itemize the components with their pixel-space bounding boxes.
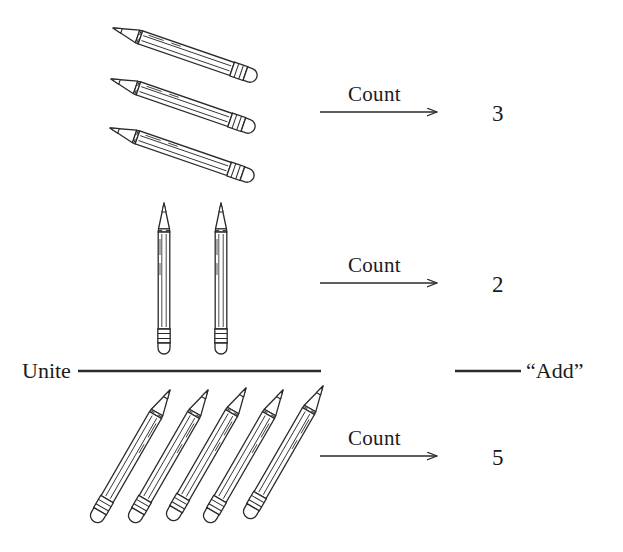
pencil-icon [158,203,170,354]
row-top-count-label: Count [348,84,401,105]
counting-diagram [0,0,623,552]
unite-label: Unite [22,360,71,382]
row-top-pencil-group [108,21,259,184]
pencil-icon [111,21,259,84]
row-bottom-pencil-group [88,382,330,525]
pencil-icon [108,121,256,184]
row-top-result: 3 [492,102,504,125]
row-middle-pencil-group [158,203,227,354]
row-middle-result: 2 [492,273,504,296]
row-bottom-count-label: Count [348,428,401,449]
row-bottom-result: 5 [492,446,504,469]
row-middle-count-label: Count [348,255,401,276]
pencil-icon [215,203,227,354]
pencil-icon [109,72,257,135]
add-label: “Add” [526,360,583,382]
